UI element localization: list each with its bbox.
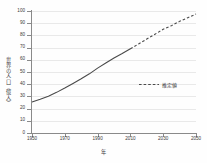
x-tick-label: 2050	[183, 137, 207, 142]
y-tick-label: 50	[7, 70, 25, 75]
y-tick-mark	[27, 60, 32, 61]
y-tick-mark	[27, 35, 32, 36]
y-tick-label: 30	[7, 94, 25, 99]
y-tick-mark	[27, 96, 32, 97]
series-layer	[32, 11, 196, 133]
y-tick-mark	[27, 109, 32, 110]
series-line-actual	[32, 49, 130, 102]
y-tick-label: 60	[7, 57, 25, 62]
x-axis-title: 年	[0, 148, 207, 155]
legend-label-estimate: 推定値	[162, 81, 177, 88]
y-tick-mark	[27, 23, 32, 24]
y-tick-label: 0	[7, 131, 25, 136]
y-tick-label: 20	[7, 106, 25, 111]
x-tick-label: 2010	[117, 137, 143, 142]
y-tick-mark	[27, 11, 32, 12]
plot-area	[32, 11, 196, 133]
legend: 推定値	[139, 81, 177, 88]
y-tick-label: 40	[7, 82, 25, 87]
y-tick-mark	[27, 72, 32, 73]
x-tick-label: 1950	[19, 137, 45, 142]
y-tick-label: 10	[7, 118, 25, 123]
series-line-estimate	[130, 14, 196, 49]
y-tick-label: 70	[7, 45, 25, 50]
y-tick-mark	[27, 121, 32, 122]
y-tick-label: 90	[7, 21, 25, 26]
x-axis-line	[31, 133, 197, 134]
y-tick-mark	[27, 48, 32, 49]
x-tick-label: 1990	[85, 137, 111, 142]
y-tick-label: 80	[7, 33, 25, 38]
y-tick-label: 100	[7, 9, 25, 14]
y-tick-mark	[27, 84, 32, 85]
legend-dashed-line-icon	[139, 84, 159, 85]
x-tick-label: 2030	[150, 137, 176, 142]
x-tick-label: 1970	[52, 137, 78, 142]
population-line-chart: 世界の人口（億人） 0102030405060708090100 1950197…	[0, 0, 207, 163]
